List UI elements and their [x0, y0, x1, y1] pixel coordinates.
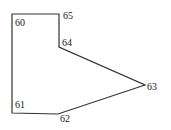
- polygon-diagram: 606564636261: [0, 0, 171, 130]
- vertex-label-63: 63: [147, 81, 157, 92]
- vertex-label-65: 65: [63, 10, 73, 21]
- vertex-label-62: 62: [60, 113, 70, 124]
- vertex-label-64: 64: [62, 37, 72, 48]
- polygon-shape: [12, 14, 145, 114]
- vertex-label-60: 60: [15, 17, 25, 28]
- vertex-label-61: 61: [15, 99, 25, 110]
